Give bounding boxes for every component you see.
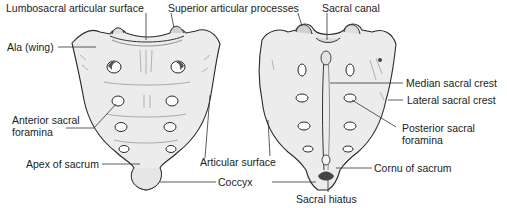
label-apex-of-sacrum: Apex of sacrum xyxy=(26,158,99,170)
label-ala: Ala (wing) xyxy=(7,41,54,53)
label-cornu-of-sacrum: Cornu of sacrum xyxy=(374,162,452,174)
label-sacral-canal: Sacral canal xyxy=(322,2,380,14)
label-posterior-sacral-foramina-line1: Posterior sacral xyxy=(402,122,475,134)
label-lumbosacral-articular-surface: Lumbosacral articular surface xyxy=(6,2,144,14)
label-superior-articular-processes: Superior articular processes xyxy=(168,2,299,14)
label-sacral-hiatus: Sacral hiatus xyxy=(296,193,357,205)
label-lateral-sacral-crest: Lateral sacral crest xyxy=(407,94,496,106)
label-anterior-sacral-foramina-line2: foramina xyxy=(12,126,53,138)
label-coccyx: Coccyx xyxy=(218,176,252,188)
label-posterior-sacral-foramina-line2: foramina xyxy=(402,134,443,146)
sacrum-diagram: Lumbosacral articular surface Superior a… xyxy=(0,0,507,208)
label-anterior-sacral-foramina-line1: Anterior sacral xyxy=(12,114,80,126)
label-articular-surface: Articular surface xyxy=(200,156,276,168)
label-median-sacral-crest: Median sacral crest xyxy=(406,77,497,89)
